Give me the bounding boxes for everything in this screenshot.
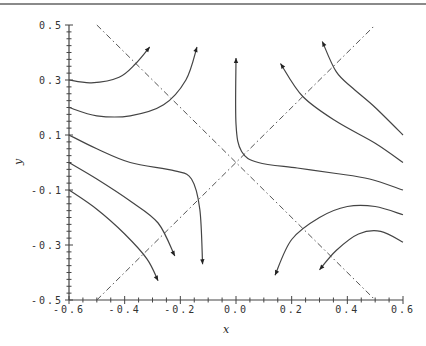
trajectory-curve — [320, 231, 404, 270]
y-tick-label: -0.1 — [31, 185, 63, 196]
trajectory-curve — [236, 58, 403, 190]
trajectory-curve — [69, 190, 158, 281]
y-tick-label: 0.1 — [39, 130, 63, 141]
axes: -0.6-0.4-0.20.00.20.40.60.50.30.1-0.1-0.… — [31, 20, 415, 315]
y-axis-label: y — [12, 158, 25, 166]
x-tick-label: 0.2 — [280, 304, 304, 315]
trajectory-curve — [69, 47, 197, 117]
x-tick-label: 0.6 — [391, 304, 415, 315]
arrowhead-icon — [200, 259, 204, 264]
x-tick-label: 0.4 — [335, 304, 359, 315]
trajectories — [69, 42, 403, 281]
x-axis-label: x — [223, 323, 230, 336]
trajectory-curve — [322, 42, 403, 136]
y-tick-label: 0.5 — [39, 20, 63, 31]
phase-portrait-chart: -0.6-0.4-0.20.00.20.40.60.50.30.1-0.1-0.… — [0, 0, 426, 346]
arrowhead-icon — [193, 47, 197, 52]
y-tick-label: -0.3 — [31, 240, 63, 251]
arrowhead-icon — [234, 58, 238, 63]
x-tick-label: -0.4 — [109, 304, 141, 315]
y-tick-label: -0.5 — [31, 295, 63, 306]
y-tick-label: 0.3 — [39, 75, 63, 86]
x-tick-label: -0.2 — [164, 304, 196, 315]
x-tick-label: 0.0 — [224, 304, 248, 315]
trajectory-curve — [69, 163, 175, 257]
